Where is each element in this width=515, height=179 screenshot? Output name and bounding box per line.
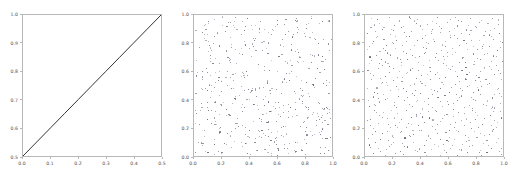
scatter-point <box>376 37 377 38</box>
scatter-point <box>225 77 226 78</box>
scatter-point <box>379 63 380 64</box>
scatter-point <box>388 124 389 125</box>
scatter-point <box>444 59 445 60</box>
scatter-point <box>289 80 290 81</box>
scatter-point <box>324 109 325 110</box>
scatter-point <box>205 88 206 89</box>
scatter-point <box>390 127 391 128</box>
scatter-point <box>425 52 426 53</box>
y-tick-mark <box>191 157 193 158</box>
scatter-point <box>196 30 197 31</box>
scatter-point <box>396 40 397 41</box>
x-tick-label: 0.0 <box>189 161 197 166</box>
scatter-point <box>458 112 459 113</box>
scatter-point <box>499 33 500 34</box>
scatter-point <box>375 31 376 32</box>
scatter-point <box>302 101 303 102</box>
scatter-point <box>444 150 445 151</box>
scatter-point <box>327 113 328 114</box>
scatter-point <box>424 122 425 123</box>
scatter-point <box>500 103 501 104</box>
scatter-point <box>217 33 218 34</box>
scatter-point <box>210 58 211 59</box>
scatter-point <box>395 36 396 37</box>
scatter-point <box>242 54 243 55</box>
scatter-point <box>207 102 208 103</box>
scatter-point <box>442 44 443 45</box>
scatter-point <box>465 67 466 68</box>
scatter-point <box>210 47 211 48</box>
scatter-point <box>264 149 265 150</box>
scatter-point <box>298 52 299 53</box>
scatter-point <box>483 44 484 45</box>
scatter-point <box>368 138 369 139</box>
scatter-point <box>410 136 411 137</box>
scatter-point <box>211 91 212 92</box>
scatter-point <box>210 55 211 56</box>
scatter-point <box>464 107 465 108</box>
scatter-point <box>501 96 502 97</box>
x-tick-label: 0.4 <box>245 161 253 166</box>
x-tick-label: 0.8 <box>301 161 309 166</box>
scatter-point <box>455 122 456 123</box>
scatter-point <box>195 123 196 124</box>
scatter-point <box>320 147 321 148</box>
scatter-point <box>452 54 453 55</box>
scatter-point <box>415 57 416 58</box>
scatter-point <box>227 133 228 134</box>
scatter-point <box>311 18 312 19</box>
scatter-point <box>426 42 427 43</box>
scatter-point <box>467 86 468 87</box>
scatter-point <box>470 18 471 19</box>
scatter-point <box>396 86 397 87</box>
scatter-point <box>382 65 383 66</box>
scatter-point <box>431 33 432 34</box>
scatter-point <box>204 130 205 131</box>
scatter-point <box>329 82 330 83</box>
scatter-point <box>294 91 295 92</box>
scatter-point <box>278 149 279 150</box>
scatter-point <box>211 110 212 111</box>
scatter-point <box>281 54 282 55</box>
scatter-point <box>389 17 390 18</box>
scatter-point <box>268 129 269 130</box>
scatter-point <box>484 135 485 136</box>
scatter-point <box>417 40 418 41</box>
scatter-point <box>261 121 262 122</box>
scatter-point <box>291 65 292 66</box>
scatter-point <box>308 117 309 118</box>
scatter-point <box>389 72 390 73</box>
scatter-point <box>396 107 397 108</box>
scatter-point <box>403 154 404 155</box>
scatter-point <box>461 21 462 22</box>
scatter-point <box>443 63 444 64</box>
scatter-point <box>300 126 301 127</box>
scatter-point <box>371 79 372 80</box>
scatter-point <box>479 152 480 153</box>
scatter-point <box>481 155 482 156</box>
x-tick-mark <box>305 157 306 159</box>
y-tick-mark <box>191 99 193 100</box>
scatter-point <box>411 124 412 125</box>
y-tick-mark <box>362 14 364 15</box>
scatter-point <box>199 124 200 125</box>
scatter-point <box>426 48 427 49</box>
scatter-point <box>440 121 441 122</box>
x-tick-mark <box>420 157 421 159</box>
scatter-point <box>280 116 281 117</box>
scatter-point <box>441 82 442 83</box>
scatter-point <box>414 83 415 84</box>
scatter-point <box>421 130 422 131</box>
y-tick-mark <box>362 128 364 129</box>
scatter-point <box>432 119 433 120</box>
x-tick-label: 0.6 <box>444 161 452 166</box>
scatter-point <box>491 36 492 37</box>
scatter-point <box>215 101 216 102</box>
scatter-point <box>231 147 232 148</box>
scatter-point <box>201 142 202 143</box>
scatter-point <box>292 36 293 37</box>
scatter-point <box>207 72 208 73</box>
scatter-point <box>236 29 237 30</box>
scatter-point <box>252 29 253 30</box>
scatter-point <box>441 28 442 29</box>
